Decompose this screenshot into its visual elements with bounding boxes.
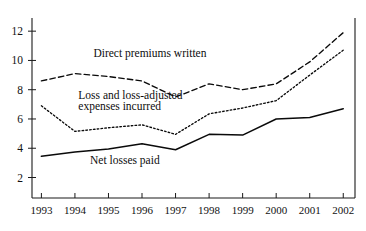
x-tick-label: 2000 (265, 204, 288, 216)
x-tick-label: 2001 (299, 204, 321, 216)
series-annotation-0: Direct premiums written (93, 47, 206, 60)
line-chart: 24681012 1993199419951996199719981999200… (0, 0, 366, 231)
y-tick-label: 8 (17, 84, 23, 96)
x-tick-label: 1996 (131, 204, 154, 216)
y-tick-label: 2 (17, 172, 23, 184)
x-tick-label: 1994 (64, 204, 87, 216)
chart-container: 24681012 1993199419951996199719981999200… (0, 0, 366, 231)
y-tick-label: 6 (17, 113, 23, 125)
y-tick-label: 4 (17, 142, 23, 154)
x-tick-label: 1995 (97, 204, 120, 216)
y-tick-label: 10 (12, 54, 24, 66)
series-annotation-3: Net losses paid (90, 154, 160, 167)
x-tick-label: 1998 (198, 204, 221, 216)
x-tick-label: 1997 (165, 204, 188, 216)
x-tick-label: 1999 (232, 204, 255, 216)
x-tick-label: 1993 (30, 204, 53, 216)
x-tick-label: 2002 (332, 204, 354, 216)
series-annotation-2: expenses incurred (78, 100, 161, 113)
y-tick-label: 12 (12, 25, 24, 37)
